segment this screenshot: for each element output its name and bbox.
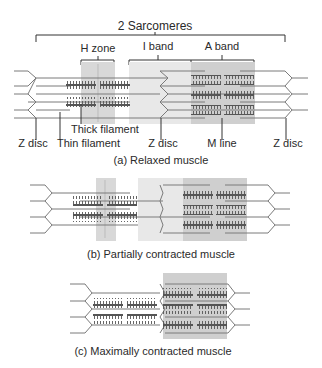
i-band-label: I band xyxy=(143,40,174,52)
a-band-label: A band xyxy=(205,40,239,52)
thin-filament-label: Thin filament xyxy=(57,137,120,149)
m-line-label: M line xyxy=(207,137,236,149)
sarcomeres-title: 2 Sarcomeres xyxy=(118,19,193,33)
caption-maximally-contracted: (c) Maximally contracted muscle xyxy=(74,345,231,357)
panel-maximally-contracted: (c) Maximally contracted muscle xyxy=(70,273,250,357)
caption-partially-contracted: (b) Partially contracted muscle xyxy=(87,248,235,260)
panel-partially-contracted: (b) Partially contracted muscle xyxy=(30,178,290,260)
sarcomere-diagram: 2 Sarcomeres H zone I band A band xyxy=(0,0,322,368)
z-disc-right-label: Z disc xyxy=(273,137,303,149)
z-disc-left-label: Z disc xyxy=(18,137,48,149)
panel-relaxed: Thick filament Z disc Thin filament Z di… xyxy=(14,62,308,166)
caption-relaxed: (a) Relaxed muscle xyxy=(114,154,209,166)
z-disc-middle-label: Z disc xyxy=(148,137,178,149)
h-zone-label: H zone xyxy=(81,42,116,54)
thick-filament-label: Thick filament xyxy=(71,123,139,135)
